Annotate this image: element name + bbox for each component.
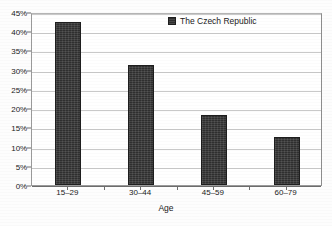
x-axis-tick-labels: 15–2930–4445–5960–79 <box>31 188 322 202</box>
y-axis-tick-label: 15% <box>0 124 27 133</box>
y-axis-tick-label: 5% <box>0 162 27 171</box>
x-axis-tick-label: 45–59 <box>202 188 224 197</box>
plot-area <box>31 13 322 186</box>
y-axis-tick-label: 0% <box>0 182 27 191</box>
y-axis-tick-label: 25% <box>0 85 27 94</box>
bar <box>274 137 300 185</box>
bar <box>128 65 154 185</box>
chart-legend: The Czech Republic <box>166 15 259 27</box>
x-axis-tick-label: 15–29 <box>56 188 78 197</box>
legend-entry-label: The Czech Republic <box>180 16 257 26</box>
y-axis-tick-label: 40% <box>0 28 27 37</box>
y-axis-tick-label: 35% <box>0 47 27 56</box>
x-axis-tick-label: 30–44 <box>129 188 151 197</box>
bar-chart-figure: 0%5%10%15%20%25%30%35%40%45% 15–2930–444… <box>0 0 332 226</box>
x-axis-title: Age <box>0 203 332 213</box>
x-axis-tick-label: 60–79 <box>275 188 297 197</box>
y-axis-tick-label: 20% <box>0 105 27 114</box>
bars-layer <box>32 14 321 185</box>
bar <box>201 115 227 185</box>
y-axis-tick-label: 30% <box>0 66 27 75</box>
y-axis-tick-label: 45% <box>0 9 27 18</box>
legend-square-marker <box>168 17 176 25</box>
bar <box>55 22 81 185</box>
y-axis-tick-label: 10% <box>0 143 27 152</box>
